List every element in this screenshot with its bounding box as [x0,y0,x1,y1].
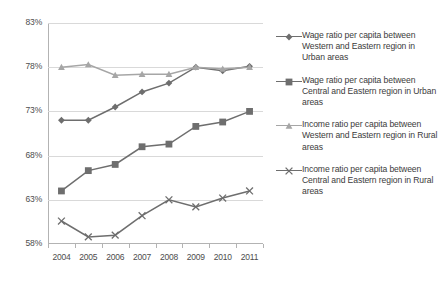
data-point-square [192,123,199,130]
legend-item[interactable]: Wage ratio per capita between Central an… [276,75,438,109]
data-point-square [85,167,92,174]
legend-item[interactable]: Income ratio per capita between Central … [276,164,438,198]
data-point-square [112,161,119,168]
legend-item-label: Wage ratio per capita between Central an… [302,75,438,109]
data-point-cross [139,212,146,219]
legend-item-label: Wage ratio per capita between Western an… [302,30,438,64]
legend-item[interactable]: Income ratio per capita between Western … [276,119,438,153]
line-chart: 83%78%73%68%63%58% 200420052006200720082… [0,0,272,289]
series-line [61,191,249,237]
data-point-square [139,143,146,150]
data-point-diamond [85,117,92,124]
data-point-square [58,188,65,195]
legend-item-label: Income ratio per capita between Western … [302,119,438,153]
data-point-square [219,119,226,126]
chart-legend: Wage ratio per capita between Western an… [276,30,438,208]
data-point-diamond [58,117,65,124]
data-point-square [166,141,173,148]
legend-item-label: Income ratio per capita between Central … [302,164,438,198]
series-4 [58,188,253,241]
chart-screenshot: 83%78%73%68%63%58% 200420052006200720082… [0,0,438,289]
data-point-diamond [166,80,173,87]
series-1 [58,63,253,124]
legend-marker-diamond-icon [276,31,302,42]
legend-marker-cross-icon [276,165,302,176]
series-3 [58,61,253,78]
legend-marker-square-icon [276,76,302,87]
legend-marker-triangle-icon [276,120,302,131]
data-point-square [246,108,253,115]
legend-item[interactable]: Wage ratio per capita between Western an… [276,30,438,64]
series-layer [0,0,272,289]
data-point-diamond [139,89,146,96]
data-point-cross [58,218,65,225]
data-point-diamond [112,104,119,111]
